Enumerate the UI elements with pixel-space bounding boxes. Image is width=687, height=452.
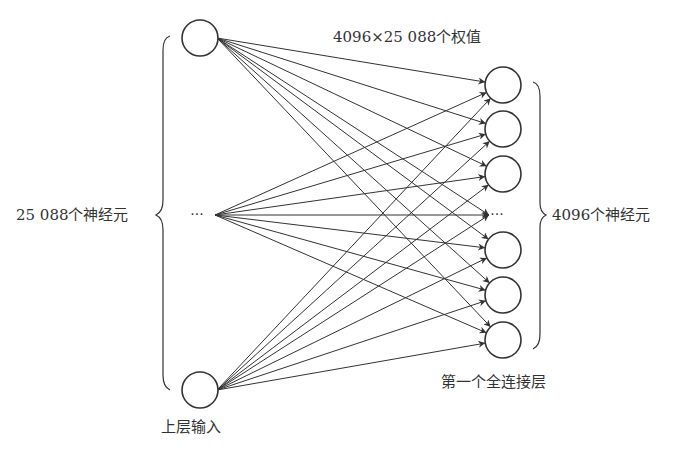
- neuron-in-top: [182, 20, 218, 56]
- edge-in-top-out-ellipsis: [217, 38, 489, 215]
- neuron-in-bottom: [182, 372, 218, 408]
- edge-in-ellipsis-out-7: [215, 215, 486, 333]
- neuron-out-7: [485, 322, 521, 358]
- neuron-out-1: [485, 67, 521, 103]
- network-graph: ······: [0, 0, 687, 452]
- left-brace: [156, 36, 170, 390]
- edge-in-ellipsis-out-5: [215, 215, 485, 248]
- neuron-out-6: [485, 277, 521, 313]
- weights-label: 4096×25 088个权值: [333, 30, 481, 45]
- connection-edges: [215, 38, 491, 390]
- right-brace: [533, 82, 546, 349]
- ellipsis-out-ellipsis: ···: [490, 206, 503, 222]
- edge-in-bottom-out-5: [217, 258, 487, 390]
- edge-in-ellipsis-out-1: [215, 92, 487, 215]
- edge-in-bottom-out-ellipsis: [217, 215, 489, 390]
- edge-in-bottom-out-1: [217, 98, 491, 390]
- output-layer-label: 第一个全连接层: [441, 375, 546, 390]
- output-neuron-count-label: 4096个神经元: [552, 208, 650, 223]
- fully-connected-diagram: ······ 4096×25 088个权值 25 088个神经元 4096个神经…: [0, 0, 687, 452]
- edge-in-top-out-3: [217, 38, 487, 166]
- edge-in-bottom-out-3: [217, 185, 489, 390]
- neuron-out-5: [485, 232, 521, 268]
- edge-in-top-out-6: [217, 38, 490, 283]
- edge-in-bottom-out-2: [217, 141, 490, 390]
- input-neuron-count-label: 25 088个神经元: [16, 208, 129, 223]
- neuron-out-2: [485, 111, 521, 147]
- input-layer-label: 上层输入: [161, 420, 221, 435]
- ellipsis-in-ellipsis: ···: [190, 206, 203, 222]
- neuron-out-3: [485, 156, 521, 192]
- neuron-nodes: ······: [182, 20, 521, 408]
